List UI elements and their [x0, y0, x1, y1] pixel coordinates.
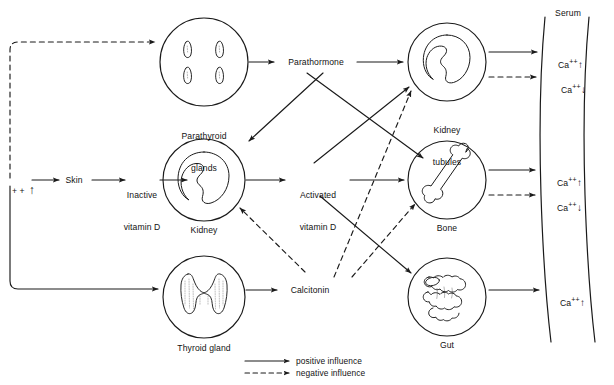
serum-entry-2-ion: Ca — [561, 84, 572, 94]
serum-entry-1-ion: Ca — [558, 59, 569, 69]
thyroid-gland-label: Thyroid gland — [177, 343, 230, 354]
serum-entry-4-charge: ++ — [568, 201, 577, 208]
parathyroid-glands-icon — [184, 41, 224, 83]
feedback-negative-parathyroid — [10, 42, 155, 178]
serum-entry-3-direction: ↑ — [577, 176, 582, 187]
arrow-calcitonin-to-kidney — [240, 208, 305, 272]
gut-icon — [423, 275, 465, 321]
activated-vitamin-d-line2: vitamin D — [300, 222, 337, 233]
serum-title: Serum — [555, 8, 581, 19]
serum-entry-1-charge: ++ — [569, 58, 578, 65]
serum-entry-5-charge: ++ — [571, 296, 580, 303]
gut-circle — [408, 258, 486, 336]
serum-entry-5: Ca++↑ — [550, 284, 585, 318]
calcitonin-label: Calcitonin — [291, 285, 330, 296]
diagram-canvas: + +↑ Skin Inactive vitamin D Parathormon… — [0, 0, 614, 385]
serum-entry-5-direction: ↑ — [580, 296, 585, 307]
serum-entry-2: Ca++↓ — [551, 71, 586, 105]
calcium-feedback-charge: + + — [12, 186, 25, 196]
inactive-vitamin-d-label: Inactive vitamin D — [124, 169, 161, 253]
arrow-parathormone-to-bone — [307, 73, 423, 158]
legend-negative-label: negative influence — [296, 368, 365, 379]
serum-entry-5-ion: Ca — [560, 297, 571, 307]
parathyroid-label-line2: glands — [181, 163, 226, 174]
parathyroid-glands-label: Parathyroid glands — [181, 110, 226, 194]
thyroid-gland-icon — [181, 274, 227, 314]
inactive-vitamin-d-line2: vitamin D — [124, 222, 161, 233]
calcium-feedback-arrow: ↑ — [29, 183, 35, 197]
arrow-activatedvitd-to-kidneytubules — [314, 87, 409, 163]
thyroid-circle — [163, 256, 245, 338]
calcium-feedback-label: + +↑ — [2, 174, 35, 207]
legend-positive-label: positive influence — [296, 356, 362, 367]
kidney-tubules-label-line2: tubules — [433, 157, 461, 168]
arrow-parathormone-to-kidney — [249, 73, 323, 141]
serum-entry-3-ion: Ca — [557, 177, 568, 187]
serum-entry-4-ion: Ca — [557, 202, 568, 212]
kidney-label: Kidney — [191, 225, 218, 236]
kidney-tubules-icon — [423, 35, 470, 83]
arrow-calcitonin-to-kidneytubules — [334, 91, 411, 277]
skin-label: Skin — [65, 175, 82, 186]
kidney-tubules-label-line1: Kidney — [433, 125, 461, 136]
serum-entry-2-direction: ↓ — [581, 83, 586, 94]
parathyroid-circle — [160, 18, 248, 106]
arrow-calcitonin-to-bone — [352, 204, 415, 277]
parathyroid-label-line1: Parathyroid — [181, 131, 226, 142]
serum-entry-4-direction: ↓ — [577, 201, 582, 212]
serum-entry-4: Ca++↓ — [547, 189, 582, 223]
gut-label: Gut — [440, 340, 454, 351]
parathormone-label: Parathormone — [288, 57, 344, 68]
serum-entry-2-charge: ++ — [572, 83, 581, 90]
kidney-tubules-label: Kidney tubules — [433, 104, 461, 188]
bone-label: Bone — [437, 223, 457, 234]
activated-vitamin-d-line1: Activated — [300, 190, 337, 201]
inactive-vitamin-d-line1: Inactive — [124, 190, 161, 201]
activated-vitamin-d-label: Activated vitamin D — [300, 169, 337, 253]
serum-entry-3-charge: ++ — [568, 176, 577, 183]
serum-entry-1-direction: ↑ — [578, 58, 583, 69]
